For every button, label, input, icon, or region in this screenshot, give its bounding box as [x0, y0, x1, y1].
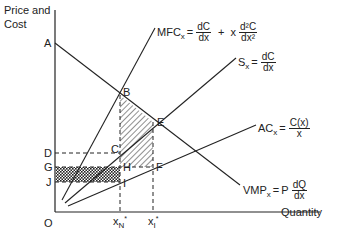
tick-x-n-star: xN* [113, 216, 127, 228]
point-b-label: B [123, 87, 130, 98]
point-a-label: A [44, 38, 51, 49]
y-axis-label-line2: Cost [4, 19, 27, 30]
supply-curve [65, 58, 236, 203]
y-axis-label-line1: Price and [4, 5, 50, 16]
point-c-label: C [111, 144, 119, 155]
tick-x-i-star: xI* [148, 216, 158, 228]
point-f-label: F [156, 162, 163, 173]
point-h-label: H [123, 162, 131, 173]
origin-label: O [44, 218, 53, 229]
point-d-label: D [44, 148, 52, 159]
ac-equation: ACx = C(x)x [258, 118, 311, 139]
x-axis-label: Quantity [281, 207, 322, 218]
crosshatched-area-ghij [56, 167, 120, 182]
point-j-label: J [46, 177, 52, 188]
point-g-label: G [44, 162, 53, 173]
point-e-label: E [157, 117, 164, 128]
mfc-equation: MFCx = dCdx + x d²Cdx² [157, 22, 258, 43]
point-i-label: I [123, 178, 126, 189]
supply-equation: Sx = dCdx [238, 52, 277, 73]
vmp-equation: VMPx = P dQdx [243, 180, 308, 201]
